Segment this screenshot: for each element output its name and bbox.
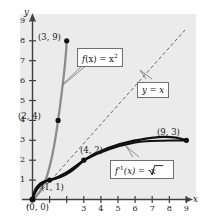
inverse-function-figure: 9 8 7 6 5 4 3 2 1 3 4 5 6 7 8 9 y x (3, … [0,0,202,223]
y-tick-label-1: 1 [15,176,25,184]
point-label-4-2: (4, 2) [80,146,103,155]
callout-finv-radicand: x [151,166,156,176]
callout-f-of-x: f(x) = x2 [77,48,123,67]
y-tick-label-3: 3 [15,136,25,144]
point-label-0-0: (0, 0) [26,203,49,212]
y-tick-label-9: 9 [15,17,25,25]
point-label-3-9: (3, 9) [38,33,61,42]
y-axis-label: y [24,7,29,17]
point-3-9 [64,38,69,43]
point-label-1-1: (1, 1) [41,183,64,192]
point-label-2-4: (2, 4) [18,112,41,121]
callout-y-equals-x: y = x [137,82,169,98]
x-tick-label-5: 5 [113,205,123,213]
point-9-3 [184,138,189,143]
x-tick-label-8: 8 [164,205,174,213]
y-tick-label-5: 5 [15,97,25,105]
callout-fx-body: (x) = x [85,54,114,64]
callout-f-inverse: f-1(x) = x [110,160,174,179]
x-tick-label-7: 7 [147,205,157,213]
x-tick-label-3: 3 [79,205,89,213]
x-tick-label-4: 4 [96,205,106,213]
point-4-2 [81,158,86,163]
x-axis-label: x [193,194,198,204]
point-label-9-3: (9, 3) [157,128,180,137]
y-tick-label-6: 6 [15,77,25,85]
y-tick-label-7: 7 [15,57,25,65]
x-tick-label-6: 6 [130,205,140,213]
y-tick-label-2: 2 [15,156,25,164]
callout-finv-middle: (x) = [124,166,148,176]
point-2-4 [56,118,61,123]
callout-fx-exponent: 2 [114,53,118,59]
y-tick-label-8: 8 [15,37,25,45]
callout-yx-text: y = x [142,85,164,95]
x-tick-label-9: 9 [181,205,191,213]
